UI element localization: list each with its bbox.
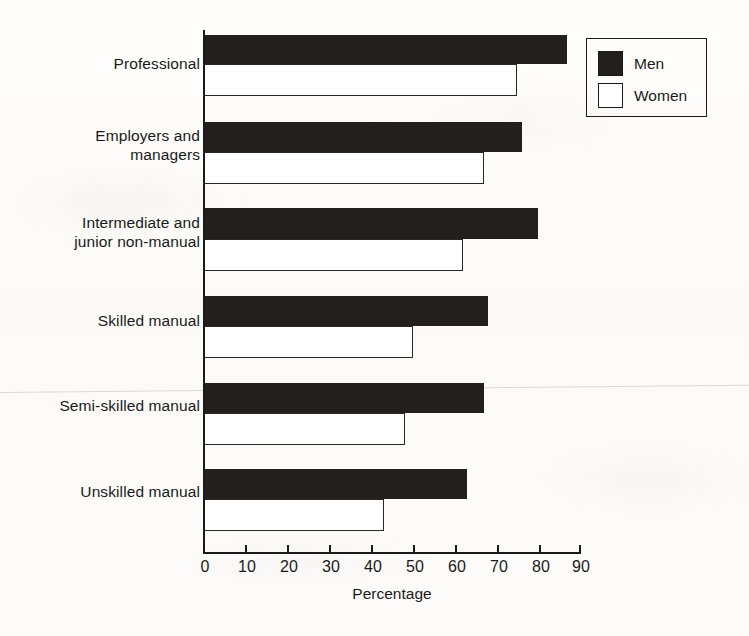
x-tick-label-40: 40: [353, 558, 393, 576]
x-tick-label-90: 90: [561, 558, 601, 576]
x-tick-60: [455, 545, 457, 553]
category-label-employers-managers: Employers and managers: [95, 126, 200, 164]
bar-women-skilled-manual: [204, 326, 413, 358]
bar-men-employers-managers: [204, 122, 522, 152]
x-tick-40: [371, 545, 373, 553]
x-tick-70: [497, 545, 499, 553]
bar-women-semi-skilled-manual: [204, 413, 405, 445]
category-label-professional: Professional: [114, 54, 201, 73]
x-tick-50: [413, 545, 415, 553]
x-axis-title: Percentage: [203, 585, 581, 603]
x-tick-label-50: 50: [395, 558, 435, 576]
bar-men-unskilled-manual: [204, 469, 467, 499]
chart-page: Professional Employers and managers Inte…: [0, 0, 749, 636]
chart-legend: Men Women: [586, 38, 707, 117]
category-label-skilled-manual: Skilled manual: [98, 311, 200, 330]
x-tick-label-80: 80: [521, 558, 561, 576]
x-tick-10: [245, 545, 247, 553]
x-tick-label-70: 70: [479, 558, 519, 576]
bar-men-semi-skilled-manual: [204, 383, 484, 413]
legend-swatch-women-icon: [598, 83, 623, 108]
bar-women-unskilled-manual: [204, 499, 384, 531]
x-tick-20: [287, 545, 289, 553]
bar-women-employers-managers: [204, 152, 484, 184]
legend-label-women: Women: [634, 87, 687, 105]
bar-men-intermediate-junior-non-manual: [204, 208, 538, 239]
x-tick-label-20: 20: [269, 558, 309, 576]
x-tick-30: [329, 545, 331, 553]
x-tick-80: [539, 545, 541, 553]
x-tick-90: [579, 545, 581, 553]
category-label-semi-skilled-manual: Semi-skilled manual: [59, 396, 200, 415]
x-tick-0: [203, 545, 205, 553]
x-tick-label-0: 0: [185, 558, 225, 576]
category-label-intermediate-junior-non-manual: Intermediate and junior non-manual: [74, 213, 200, 251]
category-label-unskilled-manual: Unskilled manual: [80, 482, 200, 501]
bar-women-professional: [204, 64, 517, 96]
bar-chart: Professional Employers and managers Inte…: [0, 0, 749, 636]
x-tick-label-30: 30: [311, 558, 351, 576]
y-axis-line: [203, 30, 205, 554]
legend-entry-women: Women: [598, 83, 687, 108]
x-tick-label-10: 10: [227, 558, 267, 576]
bar-men-skilled-manual: [204, 296, 488, 326]
x-axis-line: [203, 552, 581, 554]
legend-entry-men: Men: [598, 51, 664, 76]
legend-label-men: Men: [634, 55, 664, 73]
bar-men-professional: [204, 35, 567, 64]
x-tick-label-60: 60: [437, 558, 477, 576]
bar-women-intermediate-junior-non-manual: [204, 239, 463, 271]
legend-swatch-men-icon: [598, 51, 623, 76]
